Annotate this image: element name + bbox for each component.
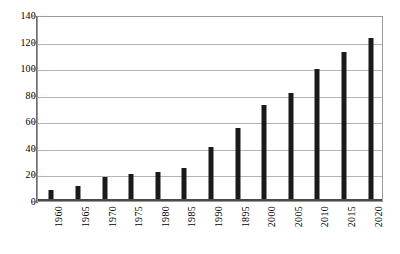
x-tick-label-1960: 1960: [54, 206, 64, 227]
bar-1895: [235, 128, 240, 201]
y-tick-mark-0: [32, 202, 36, 203]
x-tick-label-1970: 1970: [108, 206, 118, 227]
x-tick-label-1975: 1975: [134, 206, 144, 227]
gridline-120: [38, 44, 382, 45]
x-tick-label-2010: 2010: [320, 206, 330, 227]
x-tick-label-1990: 1990: [214, 206, 224, 227]
gridline-100: [38, 70, 382, 71]
y-tick-mark-100: [32, 69, 36, 70]
x-tick-label-1985: 1985: [187, 206, 197, 227]
y-tick-mark-120: [32, 42, 36, 43]
y-tick-mark-20: [32, 175, 36, 176]
y-tick-mark-140: [32, 16, 36, 17]
bar-1990: [209, 147, 214, 201]
x-tick-label-2020: 2020: [374, 206, 384, 227]
x-tick-label-1895: 1895: [241, 206, 251, 227]
bar-1970: [102, 177, 107, 201]
bar-1975: [129, 174, 134, 201]
gridline-60: [38, 123, 382, 124]
category-axis-line: [38, 199, 382, 201]
bar-2010: [315, 69, 320, 201]
x-tick-label-1980: 1980: [161, 206, 171, 227]
bar-chart: 020406080100120140 196019651970197519801…: [0, 0, 400, 254]
bar-1985: [182, 168, 187, 201]
x-tick-label-2000: 2000: [267, 206, 277, 227]
bar-1980: [155, 172, 160, 201]
bar-2005: [288, 93, 293, 201]
x-tick-label-2005: 2005: [294, 206, 304, 227]
x-tick-label-2015: 2015: [347, 206, 357, 227]
x-tick-label-1965: 1965: [81, 206, 91, 227]
bar-2015: [342, 52, 347, 201]
y-tick-mark-80: [32, 95, 36, 96]
bar-2020: [368, 38, 373, 201]
y-tick-mark-40: [32, 148, 36, 149]
y-tick-mark-60: [32, 122, 36, 123]
plot-area: [37, 16, 383, 202]
gridline-80: [38, 97, 382, 98]
bar-2000: [262, 105, 267, 201]
y-axis-tick-labels: 020406080100120140: [0, 0, 36, 254]
